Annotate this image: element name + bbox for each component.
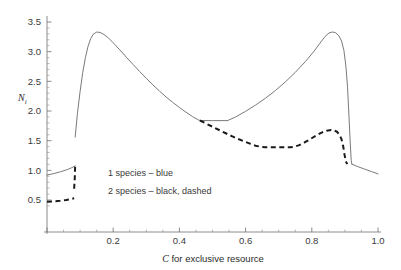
y-tick-label: 1.5 [28,135,41,146]
x-tick-label: 0.2 [107,235,120,246]
legend-entry-two-species: 2 species – black, dashed [108,186,212,196]
y-tick-label: 0.5 [28,194,41,205]
chart-figure: 0.20.40.60.81.0 0.51.01.52.02.53.03.5 C … [0,0,401,270]
legend-entry-one-species: 1 species – blue [108,168,173,178]
series-line-2-species [74,166,75,189]
x-tick-label: 0.6 [239,235,252,246]
species-density-plot: 0.20.40.60.81.0 0.51.01.52.02.53.03.5 C … [0,0,401,270]
x-axis-title-rest: for exclusive resource [169,253,264,264]
y-tick-label: 3.0 [28,46,41,57]
x-tick-label: 0.8 [305,235,318,246]
x-axis-title: C for exclusive resource [162,253,264,264]
y-axis-title-subscript: i [25,98,27,106]
y-tick-label: 1.0 [28,165,41,176]
y-tick-label: 3.5 [28,16,41,27]
x-tick-label: 0.4 [173,235,186,246]
y-tick-label: 2.5 [28,76,41,87]
y-tick-label: 2.0 [28,105,41,116]
x-tick-label: 1.0 [371,235,384,246]
